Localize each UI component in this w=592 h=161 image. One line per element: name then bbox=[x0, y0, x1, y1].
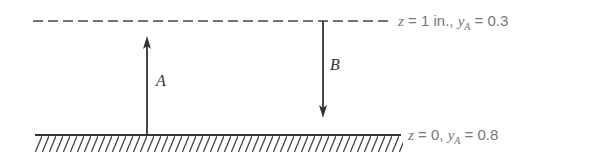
ground-hatching bbox=[35, 136, 403, 152]
y-value: = 0.3 bbox=[475, 12, 509, 29]
top-boundary-label: z = 1 in., yA = 0.3 bbox=[398, 13, 508, 32]
z-value: = 0, bbox=[418, 126, 443, 143]
z-value: = 1 in., bbox=[408, 12, 453, 29]
y-value: = 0.8 bbox=[465, 126, 499, 143]
arrow-b-down-icon bbox=[319, 21, 327, 118]
z-symbol: z bbox=[398, 13, 404, 29]
z-symbol: z bbox=[408, 127, 414, 143]
arrow-a-up-icon bbox=[143, 36, 151, 135]
bottom-boundary-label: z = 0, yA = 0.8 bbox=[408, 127, 498, 146]
y-subscript: A bbox=[454, 135, 460, 146]
y-subscript: A bbox=[464, 21, 470, 32]
arrow-b-label: B bbox=[330, 57, 340, 73]
arrow-a-label: A bbox=[156, 73, 166, 89]
